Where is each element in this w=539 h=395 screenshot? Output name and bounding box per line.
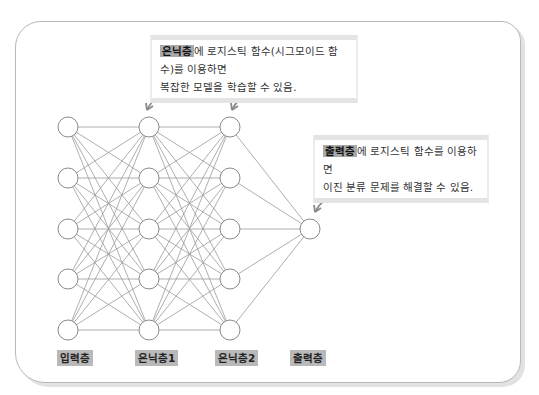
- connection-line: [230, 127, 310, 229]
- callout-highlight: 출력층: [323, 145, 357, 157]
- neuron-node: [139, 269, 159, 289]
- neuron-node: [139, 168, 159, 188]
- callout-line-1: 출력층에 로지스틱 함수를 이용하면: [323, 142, 479, 178]
- neuron-node: [58, 269, 78, 289]
- neuron-node: [58, 320, 78, 340]
- layer-label-output: 출력층: [290, 350, 326, 366]
- neuron-node: [220, 168, 240, 188]
- connection-line: [230, 178, 310, 229]
- neuron-node: [300, 219, 320, 239]
- callout-arrows: [146, 90, 340, 212]
- callout-line-2: 복잡한 모델을 학습할 수 있음.: [160, 78, 348, 96]
- neuron-node: [220, 269, 240, 289]
- neuron-node: [58, 117, 78, 137]
- neuron-node: [139, 219, 159, 239]
- callout-highlight: 은닉층: [160, 45, 194, 57]
- callout-line-2: 이진 분류 문제를 해결할 수 있음.: [323, 178, 479, 196]
- connection-line: [230, 229, 310, 279]
- callout-line-1: 은닉층에 로지스틱 함수(시그모이드 함수)를 이용하면: [160, 42, 348, 78]
- layer-label-input: 입력층: [57, 350, 93, 366]
- neuron-node: [220, 320, 240, 340]
- neuron-node: [220, 219, 240, 239]
- neuron-node: [58, 168, 78, 188]
- neuron-node: [139, 117, 159, 137]
- hidden-layer-callout: 은닉층에 로지스틱 함수(시그모이드 함수)를 이용하면 복잡한 모델을 학습할…: [150, 35, 358, 103]
- layer-label-hidden2: 은닉층2: [215, 350, 258, 366]
- layer-label-hidden1: 은닉층1: [135, 350, 178, 366]
- output-layer-callout: 출력층에 로지스틱 함수를 이용하면 이진 분류 문제를 해결할 수 있음.: [313, 135, 489, 203]
- network-connections: [68, 127, 310, 330]
- neuron-node: [220, 117, 240, 137]
- connection-line: [230, 229, 310, 330]
- neuron-node: [58, 219, 78, 239]
- neuron-node: [139, 320, 159, 340]
